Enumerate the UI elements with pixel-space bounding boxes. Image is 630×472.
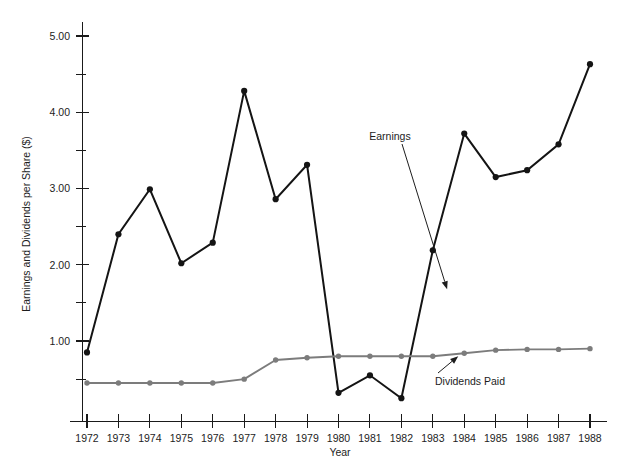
annotation-label: Earnings	[369, 130, 410, 142]
data-point-marker	[178, 260, 184, 266]
data-point-marker	[210, 240, 216, 246]
x-tick-label: 1972	[75, 432, 99, 444]
data-point-marker	[335, 390, 341, 396]
data-point-marker	[398, 395, 404, 401]
data-point-marker	[336, 354, 341, 359]
data-point-marker	[367, 354, 372, 359]
data-point-marker	[210, 380, 215, 385]
data-point-marker	[273, 357, 278, 362]
data-point-marker	[147, 186, 153, 192]
x-tick-label: 1981	[358, 432, 382, 444]
x-tick-label: 1977	[233, 432, 257, 444]
x-tick-label: 1987	[547, 432, 571, 444]
y-tick-label: 1.00	[50, 335, 71, 347]
series-layer	[84, 61, 593, 401]
data-point-marker	[524, 347, 529, 352]
data-point-marker	[179, 380, 184, 385]
data-point-marker	[399, 354, 404, 359]
series-dividends-paid	[84, 346, 592, 386]
earnings-dividends-line-chart: 1.002.003.004.005.00 1972197319741975197…	[0, 0, 630, 472]
data-point-marker	[241, 88, 247, 94]
x-tick-label: 1982	[390, 432, 414, 444]
annotation-earnings: Earnings	[369, 130, 447, 289]
data-point-marker	[587, 61, 593, 67]
data-point-marker	[493, 174, 499, 180]
y-axis-tick-labels: 1.002.003.004.005.00	[50, 30, 71, 347]
annotation-arrow-shaft	[402, 144, 445, 282]
data-point-marker	[556, 347, 561, 352]
data-point-marker	[84, 349, 90, 355]
annotation-dividends-paid: Dividends Paid	[435, 356, 505, 387]
data-point-marker	[241, 376, 246, 381]
chart-page: 1.002.003.004.005.00 1972197319741975197…	[0, 0, 630, 472]
x-tick-label: 1985	[484, 432, 508, 444]
y-tick-label: 3.00	[50, 182, 71, 194]
annotation-arrow-shaft	[438, 361, 452, 373]
plot-axes	[70, 22, 607, 422]
x-tick-label: 1980	[327, 432, 351, 444]
data-point-marker	[493, 347, 498, 352]
data-point-marker	[367, 372, 373, 378]
data-point-marker	[147, 380, 152, 385]
data-point-marker	[555, 141, 561, 147]
x-tick-label: 1979	[295, 432, 319, 444]
x-tick-label: 1974	[138, 432, 162, 444]
y-tick-label: 2.00	[50, 259, 71, 271]
x-tick-label: 1973	[107, 432, 131, 444]
data-point-marker	[115, 231, 121, 237]
x-tick-label: 1975	[170, 432, 194, 444]
data-point-marker	[524, 167, 530, 173]
data-point-marker	[116, 380, 121, 385]
x-axis-tick-labels: 1972197319741975197619771978197919801981…	[75, 432, 602, 444]
data-point-marker	[430, 354, 435, 359]
data-point-marker	[587, 346, 592, 351]
annotation-label: Dividends Paid	[435, 375, 505, 387]
x-tick-label: 1978	[264, 432, 288, 444]
x-tick-label: 1986	[515, 432, 539, 444]
data-point-marker	[304, 162, 310, 168]
x-tick-label: 1983	[421, 432, 445, 444]
annotation-layer: EarningsDividends Paid	[369, 130, 505, 387]
x-tick-label: 1976	[201, 432, 225, 444]
data-point-marker	[304, 355, 309, 360]
y-tick-label: 5.00	[50, 30, 71, 42]
x-tick-label: 1984	[453, 432, 477, 444]
data-point-marker	[462, 351, 467, 356]
data-point-marker	[461, 131, 467, 137]
x-tick-label: 1988	[578, 432, 602, 444]
y-tick-label: 4.00	[50, 106, 71, 118]
data-point-marker	[84, 380, 89, 385]
annotation-arrow-head	[442, 281, 448, 290]
data-point-marker	[273, 196, 279, 202]
series-path	[87, 64, 590, 398]
x-axis-title: Year	[329, 446, 351, 458]
y-axis-title: Earnings and Dividends per Share ($)	[20, 136, 32, 312]
